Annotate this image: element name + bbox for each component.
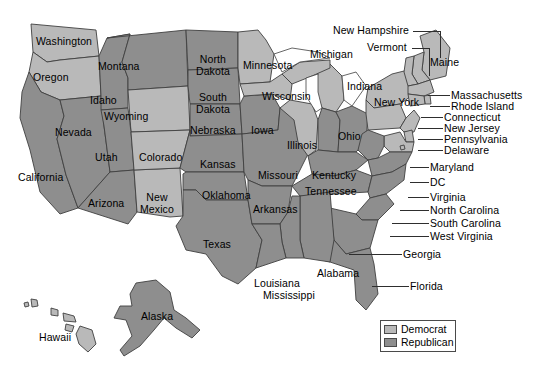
map-label-maine[interactable]: Maine: [430, 57, 459, 68]
map-label-illinois[interactable]: Illinois: [287, 140, 317, 151]
map-label-new-york[interactable]: New York: [374, 97, 419, 108]
map-label-delaware[interactable]: Delaware: [444, 145, 489, 156]
map-label-texas[interactable]: Texas: [203, 239, 231, 250]
map-label-minnesota[interactable]: Minnesota: [243, 60, 292, 71]
map-label-vermont[interactable]: Vermont: [367, 42, 407, 53]
map-label-ohio[interactable]: Ohio: [338, 131, 361, 142]
state-alabama[interactable]: [300, 192, 334, 262]
map-label-michigan[interactable]: Michigan: [310, 49, 353, 60]
map-label-north-dakota[interactable]: NorthDakota: [196, 54, 230, 77]
map-label-south-dakota[interactable]: SouthDakota: [196, 92, 230, 115]
state-hawaii-4[interactable]: [63, 313, 76, 322]
map-label-dc[interactable]: DC: [430, 177, 445, 188]
map-label-alabama[interactable]: Alabama: [317, 268, 359, 279]
leader-line-virginia: [408, 197, 429, 198]
map-label-oregon[interactable]: Oregon: [33, 72, 69, 83]
map-label-nebraska[interactable]: Nebraska: [190, 125, 236, 136]
state-delaware[interactable]: [404, 130, 414, 142]
legend-label-democrat: Democrat: [401, 324, 447, 335]
leader-line-new-hampshire: [413, 31, 440, 32]
map-label-west-virginia[interactable]: West Virginia: [430, 231, 493, 242]
map-label-oklahoma[interactable]: Oklahoma: [202, 190, 251, 201]
map-label-alaska[interactable]: Alaska: [141, 311, 173, 322]
map-label-tennessee[interactable]: Tennessee: [305, 186, 357, 197]
leader-line-florida: [372, 286, 409, 287]
leader-line-delaware: [418, 150, 443, 151]
map-label-florida[interactable]: Florida: [410, 281, 443, 292]
map-label-south-carolina[interactable]: South Carolina: [430, 218, 501, 229]
leader-line-dc: [410, 182, 429, 183]
legend-item-democrat[interactable]: Democrat: [384, 323, 452, 336]
map-label-missouri[interactable]: Missouri: [258, 170, 298, 181]
map-label-new-hampshire[interactable]: New Hampshire: [333, 25, 409, 36]
leader-line-georgia: [349, 254, 402, 255]
map-label-virginia[interactable]: Virginia: [430, 192, 466, 203]
map-legend: Democrat Republican: [380, 320, 456, 352]
map-label-california[interactable]: California: [18, 172, 63, 183]
state-hawaii-1[interactable]: [24, 302, 29, 307]
leader-drop-new-hampshire: [440, 31, 441, 58]
legend-label-republican: Republican: [401, 337, 454, 348]
legend-swatch-democrat: [384, 325, 397, 334]
map-label-montana[interactable]: Montana: [98, 61, 140, 72]
map-label-utah[interactable]: Utah: [95, 152, 118, 163]
map-label-colorado[interactable]: Colorado: [139, 152, 182, 163]
leader-line-north-carolina: [400, 210, 429, 211]
us-political-map: WashingtonOregonCaliforniaNevadaIdahoMon…: [0, 0, 539, 371]
map-label-wyoming[interactable]: Wyoming: [104, 111, 148, 122]
legend-item-republican[interactable]: Republican: [384, 336, 452, 349]
map-label-wisconsin[interactable]: Wisconsin: [262, 91, 311, 102]
leader-line-rhode-island: [430, 106, 450, 107]
state-hawaii-3[interactable]: [51, 308, 58, 316]
map-label-maryland[interactable]: Maryland: [430, 162, 474, 173]
leader-line-new-jersey: [418, 128, 443, 129]
map-label-georgia[interactable]: Georgia: [403, 249, 441, 260]
leader-line-south-carolina: [392, 223, 429, 224]
map-label-new-mexico[interactable]: NewMexico: [140, 192, 174, 215]
map-label-washington[interactable]: Washington: [36, 36, 92, 47]
legend-swatch-republican: [384, 338, 397, 347]
map-label-idaho[interactable]: Idaho: [90, 95, 117, 106]
leader-line-vermont: [412, 48, 429, 49]
leader-line-connecticut: [421, 117, 443, 118]
map-label-louisiana[interactable]: Louisiana: [254, 278, 300, 289]
map-label-mississippi[interactable]: Mississippi: [263, 290, 315, 301]
map-label-north-carolina[interactable]: North Carolina: [430, 205, 499, 216]
state-wyoming[interactable]: [128, 86, 190, 132]
state-south-carolina[interactable]: [356, 194, 394, 220]
map-label-kentucky[interactable]: Kentucky: [312, 170, 356, 181]
state-indiana[interactable]: [318, 108, 340, 152]
state-dc[interactable]: [400, 145, 405, 150]
map-label-kansas[interactable]: Kansas: [200, 159, 236, 170]
leader-line-massachusetts: [428, 95, 450, 96]
state-hawaii-2[interactable]: [31, 299, 38, 307]
map-label-arizona[interactable]: Arizona: [88, 198, 124, 209]
map-label-hawaii[interactable]: Hawaii: [39, 332, 71, 343]
leader-drop-vermont: [429, 48, 430, 76]
map-label-iowa[interactable]: Iowa: [251, 125, 274, 136]
state-minnesota[interactable]: [238, 30, 274, 84]
state-hawaii-6[interactable]: [76, 326, 96, 352]
map-label-arkansas[interactable]: Arkansas: [253, 204, 298, 215]
map-label-nevada[interactable]: Nevada: [55, 127, 92, 138]
leader-line-maryland: [410, 167, 429, 168]
leader-line-pennsylvania: [418, 139, 443, 140]
leader-line-west-virginia: [390, 236, 429, 237]
map-label-indiana[interactable]: Indiana: [347, 81, 382, 92]
